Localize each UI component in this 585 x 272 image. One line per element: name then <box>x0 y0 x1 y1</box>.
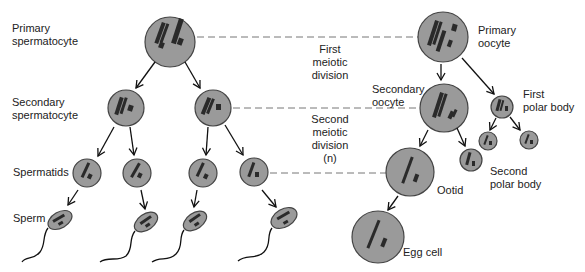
secondary-spermatocyte-cell-right <box>195 90 231 126</box>
sperm-cell-3 <box>152 207 210 262</box>
arrow-secondary-to-spermatid-4 <box>225 125 243 155</box>
meiosis-diagram: Primary spermatocyte Secondary spermatoc… <box>0 0 585 272</box>
polar-body-cell-left <box>479 132 497 150</box>
polar-body-cell-right <box>520 131 538 149</box>
label-secondary-spermatocyte: Secondary spermatocyte <box>12 96 78 122</box>
arrow-spermatid-to-sperm-3 <box>194 190 197 207</box>
label-secondary-oocyte: Secondary oocyte <box>372 83 425 109</box>
primary-spermatocyte-cell <box>145 17 195 67</box>
label-primary-spermatocyte: Primary spermatocyte <box>12 22 78 48</box>
arrow-ootid-to-egg <box>388 196 398 210</box>
spermatid-cell-3 <box>189 159 217 187</box>
label-primary-oocyte: Primary oocyte <box>478 24 516 50</box>
arrow-spermatid-to-sperm-1 <box>68 190 78 205</box>
arrow-primary-to-secondary-right <box>185 62 200 88</box>
arrow-secondary-oocyte-to-ootid <box>420 130 428 146</box>
sperm-cell-4 <box>238 203 301 261</box>
sperm-cell-2 <box>100 208 161 262</box>
arrow-secondary-to-spermatid-3 <box>206 127 208 155</box>
label-second-polar-body: Second polar body <box>490 165 541 191</box>
first-polar-body-cell <box>491 96 513 118</box>
spermatid-cell-2 <box>123 159 151 187</box>
arrow-secondary-oocyte-to-second-polar-body <box>457 128 465 146</box>
primary-oocyte-cell <box>418 12 468 62</box>
arrow-secondary-to-spermatid-1 <box>98 127 114 156</box>
arrow-first-polar-body-to-left <box>490 118 496 130</box>
secondary-oocyte-cell <box>420 84 468 132</box>
arrow-primary-to-secondary-left <box>136 62 155 88</box>
arrow-first-polar-body-to-right <box>510 117 520 130</box>
spermatid-cell-4 <box>240 158 268 186</box>
ootid-cell <box>386 148 434 196</box>
arrow-primary-to-first-polar-body <box>462 58 494 94</box>
label-ootid: Ootid <box>437 184 463 197</box>
label-spermatids: Spermatids <box>13 166 69 179</box>
label-first-meiotic-division: First meiotic division <box>306 43 354 82</box>
label-second-meiotic-division: Second meiotic division (n) <box>306 113 354 165</box>
second-polar-body-cell <box>460 149 482 171</box>
secondary-spermatocyte-cell-left <box>108 90 144 126</box>
label-first-polar-body: First polar body <box>523 88 574 114</box>
label-sperm: Sperm <box>13 212 45 225</box>
arrow-secondary-to-spermatid-2 <box>130 127 134 155</box>
spermatid-cell-1 <box>73 159 101 187</box>
arrow-spermatid-to-sperm-2 <box>141 190 145 209</box>
label-egg-cell: Egg cell <box>403 246 442 259</box>
arrow-spermatid-to-sperm-4 <box>262 190 276 207</box>
egg-cell <box>352 211 404 263</box>
